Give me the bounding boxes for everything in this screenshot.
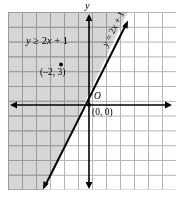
point-origin [87, 103, 91, 107]
point-minus2-3 [59, 63, 63, 67]
inequality-label: y ≥ 2x + 1 [26, 36, 68, 47]
point-coordinate-label: (–2, 3) [40, 68, 65, 78]
origin-coordinate-label: (0, 0) [92, 108, 113, 118]
plotted-points [0, 0, 180, 199]
origin-letter-label: O [94, 92, 101, 102]
y-axis-label: y [85, 1, 90, 12]
inequality-graph-figure: y ≥ 2x + 1 (–2, 3) O (0, 0) y y = 2x + 1 [0, 0, 180, 199]
inequality-relation: ≥ 2 [31, 35, 47, 46]
inequality-constant: + 1 [52, 35, 68, 46]
